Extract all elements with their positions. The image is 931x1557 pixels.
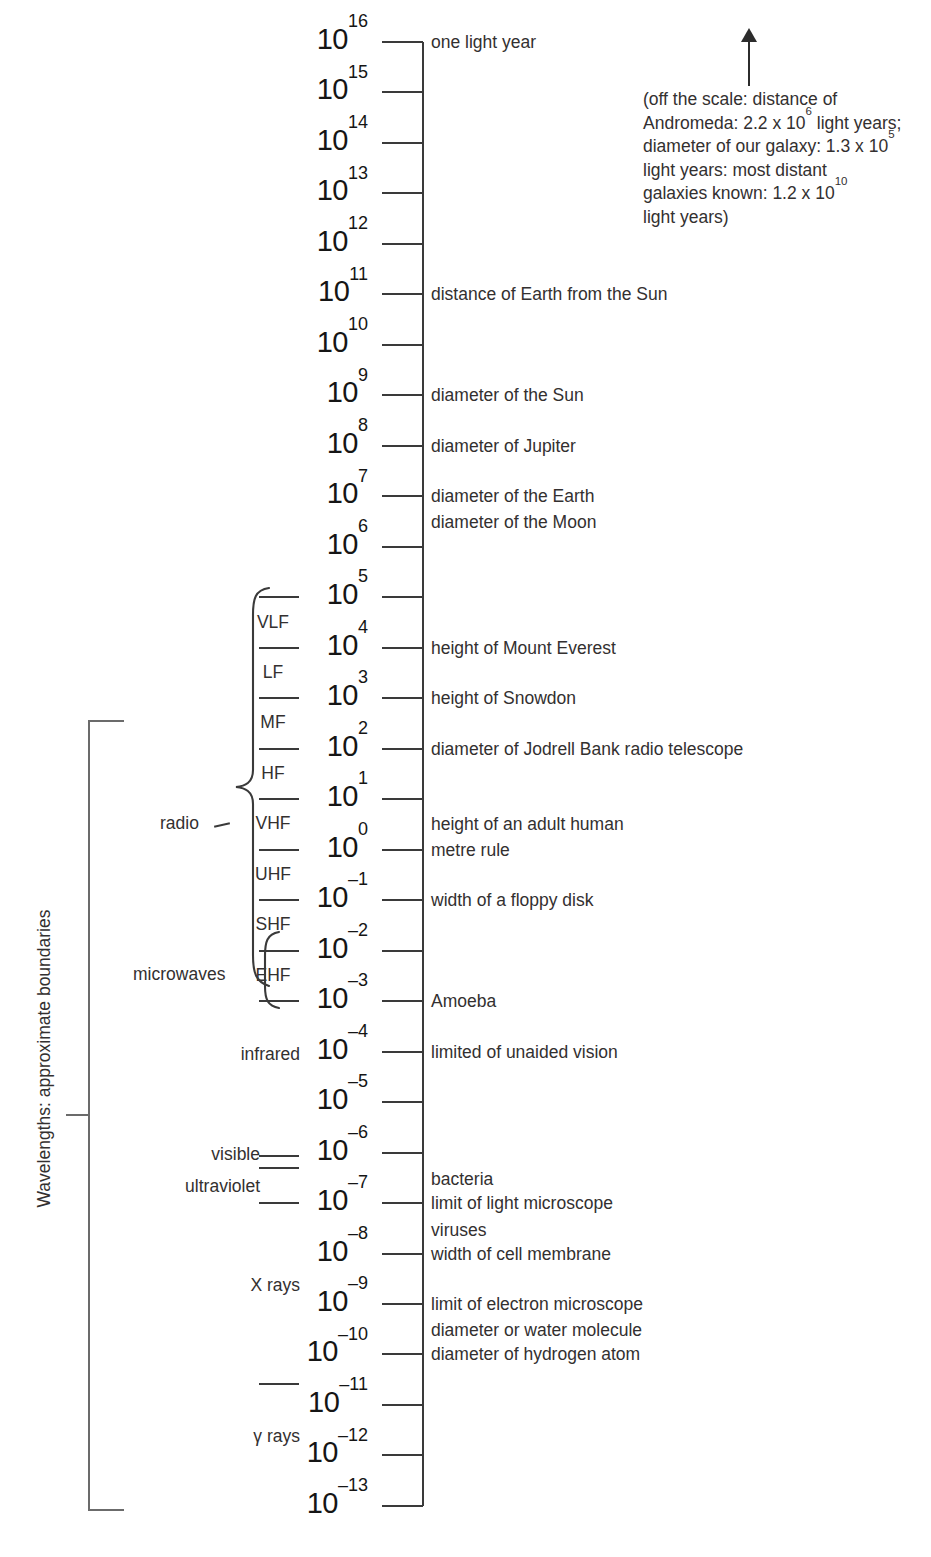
reference-object-label: diameter or water molecule bbox=[431, 1322, 642, 1340]
decade-mantissa: 10 bbox=[317, 932, 348, 964]
reference-object-label: diameter of the Sun bbox=[431, 387, 584, 405]
annotation-arrow-head-icon bbox=[741, 28, 757, 42]
off-scale-annotation: (off the scale: distance of Andromeda: 2… bbox=[643, 88, 905, 229]
reference-object-label: one light year bbox=[431, 34, 536, 52]
reference-object-label: limit of electron microscope bbox=[431, 1296, 643, 1314]
decade-exponent: –10 bbox=[338, 1324, 368, 1344]
axis-tick bbox=[382, 798, 423, 800]
decade-mantissa: 10 bbox=[317, 326, 348, 358]
axis-tick bbox=[382, 1152, 423, 1154]
decade-exponent: –1 bbox=[348, 869, 368, 889]
reference-object-label: height of Mount Everest bbox=[431, 640, 616, 658]
decade-mantissa: 10 bbox=[317, 124, 348, 156]
reference-object-label: limit of light microscope bbox=[431, 1195, 613, 1213]
axis-tick bbox=[382, 647, 423, 649]
axis-tick bbox=[382, 1101, 423, 1103]
annotation-line-5a: galaxies known: 1.2 x 10 bbox=[643, 183, 835, 203]
axis-title: Wavelengths: approximate boundaries bbox=[34, 899, 55, 1219]
decade-mantissa: 10 bbox=[317, 1134, 348, 1166]
decade-exponent: 3 bbox=[358, 667, 368, 687]
decade-exponent: 8 bbox=[358, 415, 368, 435]
decade-mantissa: 10 bbox=[327, 831, 358, 863]
ultraviolet-boundary-dash bbox=[259, 1202, 299, 1204]
decade-exponent: 13 bbox=[348, 163, 368, 183]
annotation-line-3-exponent: 5 bbox=[888, 128, 894, 140]
annotation-line-3a: diameter of our galaxy: 1.3 x 10 bbox=[643, 136, 888, 156]
reference-object-label: diameter of the Moon bbox=[431, 514, 596, 532]
wavelength-bracket-top-arm bbox=[88, 720, 124, 722]
reference-object-label: diameter of the Earth bbox=[431, 488, 594, 506]
decade-mantissa: 10 bbox=[307, 1335, 338, 1367]
reference-object-label: diameter of Jodrell Bank radio telescope bbox=[431, 741, 743, 759]
decade-exponent: 0 bbox=[358, 819, 368, 839]
reference-object-label: Amoeba bbox=[431, 993, 496, 1011]
axis-tick bbox=[382, 1051, 423, 1053]
decade-exponent: –4 bbox=[348, 1021, 368, 1041]
decade-exponent: 10 bbox=[348, 314, 368, 334]
axis-tick bbox=[382, 697, 423, 699]
reference-object-label: width of cell membrane bbox=[431, 1246, 611, 1264]
decade-mantissa: 10 bbox=[317, 1184, 348, 1216]
decade-exponent: 14 bbox=[348, 112, 368, 132]
visible-boundary-dash-lower bbox=[259, 1167, 299, 1169]
axis-tick bbox=[382, 445, 423, 447]
decade-exponent: –11 bbox=[339, 1374, 368, 1394]
reference-object-label: metre rule bbox=[431, 842, 510, 860]
decade-mantissa: 10 bbox=[307, 1487, 338, 1519]
axis-tick bbox=[382, 899, 423, 901]
xray-gamma-boundary-dash bbox=[259, 1383, 299, 1385]
annotation-line-2a: Andromeda: 2.2 x 10 bbox=[643, 113, 805, 133]
axis-tick bbox=[382, 91, 423, 93]
decade-mantissa: 10 bbox=[317, 1083, 348, 1115]
axis-tick bbox=[382, 394, 423, 396]
spectrum-region-ultraviolet: ultraviolet bbox=[40, 1178, 260, 1196]
decade-exponent: 16 bbox=[348, 11, 368, 31]
reference-object-label: distance of Earth from the Sun bbox=[431, 286, 667, 304]
axis-tick bbox=[382, 546, 423, 548]
diagram-canvas: 1016101510141013101210111010109108107106… bbox=[0, 0, 931, 1557]
decade-mantissa: 10 bbox=[307, 1436, 338, 1468]
reference-object-label: diameter of Jupiter bbox=[431, 438, 576, 456]
reference-object-label: height of Snowdon bbox=[431, 690, 576, 708]
spectrum-region-microwaves: microwaves bbox=[133, 966, 225, 984]
axis-tick bbox=[382, 1253, 423, 1255]
decade-exponent: –8 bbox=[348, 1223, 368, 1243]
decade-mantissa: 10 bbox=[317, 1235, 348, 1267]
decade-mantissa: 10 bbox=[317, 1033, 348, 1065]
decade-mantissa: 10 bbox=[327, 730, 358, 762]
decade-mantissa: 10 bbox=[327, 477, 358, 509]
decade-mantissa: 10 bbox=[308, 1386, 339, 1418]
decade-exponent: –5 bbox=[348, 1071, 368, 1091]
decade-mantissa: 10 bbox=[317, 23, 348, 55]
axis-tick bbox=[382, 142, 423, 144]
decade-mantissa: 10 bbox=[317, 225, 348, 257]
decade-exponent: 4 bbox=[358, 617, 368, 637]
decade-exponent: –7 bbox=[348, 1172, 368, 1192]
reference-object-label: limited of unaided vision bbox=[431, 1044, 618, 1062]
decade-mantissa: 10 bbox=[317, 982, 348, 1014]
reference-object-label: height of an adult human bbox=[431, 816, 624, 834]
spectrum-region-radio: radio bbox=[160, 815, 199, 833]
decade-mantissa: 10 bbox=[327, 780, 358, 812]
decade-exponent: 9 bbox=[358, 365, 368, 385]
axis-tick bbox=[382, 1000, 423, 1002]
decade-exponent: 11 bbox=[349, 264, 368, 284]
decade-mantissa: 10 bbox=[327, 528, 358, 560]
axis-tick bbox=[382, 596, 423, 598]
decade-mantissa: 10 bbox=[317, 1285, 348, 1317]
decade-exponent: –2 bbox=[348, 920, 368, 940]
decade-exponent: 2 bbox=[358, 718, 368, 738]
axis-tick bbox=[382, 1454, 423, 1456]
decade-mantissa: 10 bbox=[318, 275, 349, 307]
spectrum-region-visible: visible bbox=[60, 1146, 260, 1164]
axis-tick bbox=[382, 293, 423, 295]
scale-axis-line bbox=[422, 42, 424, 1506]
decade-exponent: –12 bbox=[338, 1425, 368, 1445]
wavelength-bracket-bottom-arm bbox=[88, 1509, 124, 1511]
visible-boundary-dash-upper bbox=[259, 1155, 299, 1157]
decade-exponent: –6 bbox=[348, 1122, 368, 1142]
decade-mantissa: 10 bbox=[317, 73, 348, 105]
annotation-line-6: light years) bbox=[643, 207, 729, 227]
annotation-line-2-exponent: 6 bbox=[805, 105, 811, 117]
decade-mantissa: 10 bbox=[327, 578, 358, 610]
